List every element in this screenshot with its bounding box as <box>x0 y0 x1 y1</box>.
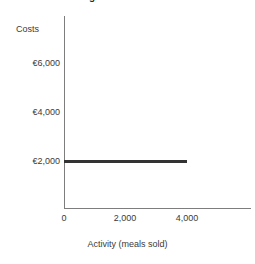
y-axis-line <box>64 16 65 209</box>
chart-title: Figure: Fixed costs <box>0 0 255 2</box>
y-axis-title: Costs <box>16 24 39 34</box>
x-tick-label: 2,000 <box>114 213 137 223</box>
y-tick-label: €4,000 <box>2 107 60 117</box>
y-tick-label: €6,000 <box>2 58 60 68</box>
y-tick-label: €2,000 <box>2 156 60 166</box>
fixed-costs-chart: Figure: Fixed costs Costs Activity (meal… <box>0 0 255 264</box>
x-tick-label: 0 <box>61 213 66 223</box>
x-axis-line <box>64 208 251 209</box>
x-axis-title: Activity (meals sold) <box>0 239 255 249</box>
fixed-costs-series-line <box>64 160 187 163</box>
x-tick-label: 4,000 <box>176 213 199 223</box>
